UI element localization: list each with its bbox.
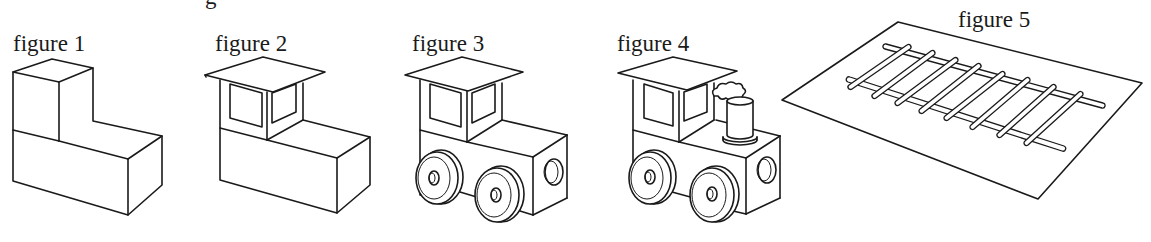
figure-3-wheeled-cab-drawing	[405, 57, 567, 222]
figure-4-locomotive-drawing	[618, 57, 780, 222]
figure-1-block-drawing	[13, 59, 162, 215]
figure-2-cab-drawing	[205, 57, 370, 213]
figure-5-track-drawing	[782, 22, 1142, 199]
figures-illustration	[0, 0, 1151, 242]
